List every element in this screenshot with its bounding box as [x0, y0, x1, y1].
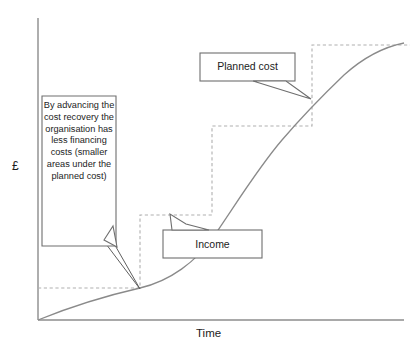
y-axis-label: £: [12, 159, 19, 173]
x-axis-label: Time: [196, 327, 221, 339]
planned-cost-callout-tail: [253, 81, 311, 99]
advancing-callout-label: By advancing the cost recovery the organ…: [43, 100, 115, 182]
advancing-pointer-line-b: [103, 240, 140, 289]
income-callout-label: Income: [164, 238, 261, 251]
advancing-pointer-line-a: [112, 240, 140, 289]
planned-cost-callout-label: Planned cost: [201, 60, 294, 73]
income-callout-tail: [170, 214, 209, 230]
chart-container: £ Time By advancing the cost recovery th…: [0, 0, 413, 352]
